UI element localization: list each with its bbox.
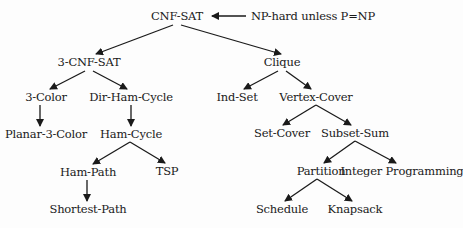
- node-clique: Clique: [264, 55, 301, 69]
- node-cnf-sat: CNF-SAT: [151, 9, 203, 23]
- reduction-arrow: [130, 142, 165, 163]
- np-hard-annotation: NP-hard unless P=NP: [251, 9, 375, 23]
- node-ind-set: Ind-Set: [216, 90, 257, 104]
- reduction-arrow: [285, 179, 317, 201]
- node-shortest-path: Shortest-Path: [49, 202, 126, 216]
- reduction-arrow: [244, 71, 278, 89]
- reduction-arrow: [93, 142, 130, 164]
- reduction-arrow: [286, 71, 311, 89]
- reduction-arrow: [324, 141, 355, 163]
- node-knapsack: Knapsack: [328, 202, 383, 216]
- node-schedule: Schedule: [256, 202, 308, 216]
- node-partition: Partition: [297, 164, 346, 178]
- reduction-diagram: CNF-SAT3-CNF-SATClique3-ColorDir-Ham-Cyc…: [0, 0, 463, 228]
- node-three-cnf-sat: 3-CNF-SAT: [58, 55, 121, 69]
- node-subset-sum: Subset-Sum: [321, 126, 389, 140]
- node-tsp: TSP: [156, 164, 179, 178]
- reduction-arrow: [50, 71, 85, 89]
- reduction-arrow: [317, 179, 352, 201]
- node-three-color: 3-Color: [25, 90, 67, 104]
- edge-layer: [0, 0, 463, 228]
- reduction-arrow: [355, 141, 396, 163]
- node-dir-ham-cycle: Dir-Ham-Cycle: [89, 90, 173, 104]
- node-ham-cycle: Ham-Cycle: [100, 127, 162, 141]
- node-ham-path: Ham-Path: [60, 165, 116, 179]
- reduction-arrow: [316, 105, 351, 125]
- reduction-arrow: [96, 25, 173, 54]
- reduction-arrow: [283, 105, 316, 125]
- node-integer-programming: Integer Programming: [340, 164, 463, 178]
- reduction-arrow: [181, 25, 281, 54]
- node-vertex-cover: Vertex-Cover: [279, 90, 352, 104]
- node-planar-3-color: Planar-3-Color: [5, 127, 87, 141]
- reduction-arrow: [93, 71, 127, 89]
- node-set-cover: Set-Cover: [254, 126, 310, 140]
